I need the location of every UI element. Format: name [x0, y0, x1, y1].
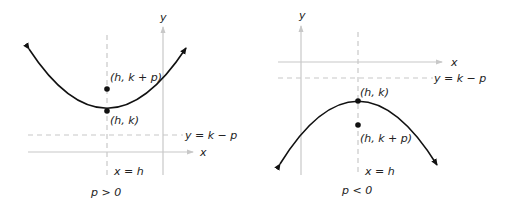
y-axis-label: y — [298, 9, 306, 22]
vertex-label: (h, k) — [360, 86, 389, 99]
axis-of-symmetry-label: x = h — [364, 165, 395, 178]
parabola-diagram: y x (h, k + p) (h, k) y = k − p x = h p … — [0, 0, 517, 207]
vertex-point — [355, 98, 361, 104]
panel-downward: y x (h, k) (h, k + p) y = k − p x = h p … — [278, 9, 486, 197]
focus-point — [104, 86, 110, 92]
focus-point — [355, 122, 361, 128]
x-axis-label: x — [450, 56, 458, 69]
focus-label: (h, k + p) — [360, 132, 412, 145]
directrix-label: y = k − p — [433, 72, 486, 85]
directrix-label: y = k − p — [184, 129, 237, 142]
focus-label: (h, k + p) — [110, 71, 162, 84]
condition-label: p > 0 — [90, 186, 121, 199]
panel-upward: y x (h, k + p) (h, k) y = k − p x = h p … — [28, 11, 237, 199]
x-axis-label: x — [199, 146, 207, 159]
vertex-label: (h, k) — [110, 114, 139, 127]
vertex-point — [104, 108, 110, 114]
condition-label: p < 0 — [341, 184, 372, 197]
y-axis-label: y — [159, 11, 167, 24]
axis-of-symmetry-label: x = h — [113, 165, 144, 178]
